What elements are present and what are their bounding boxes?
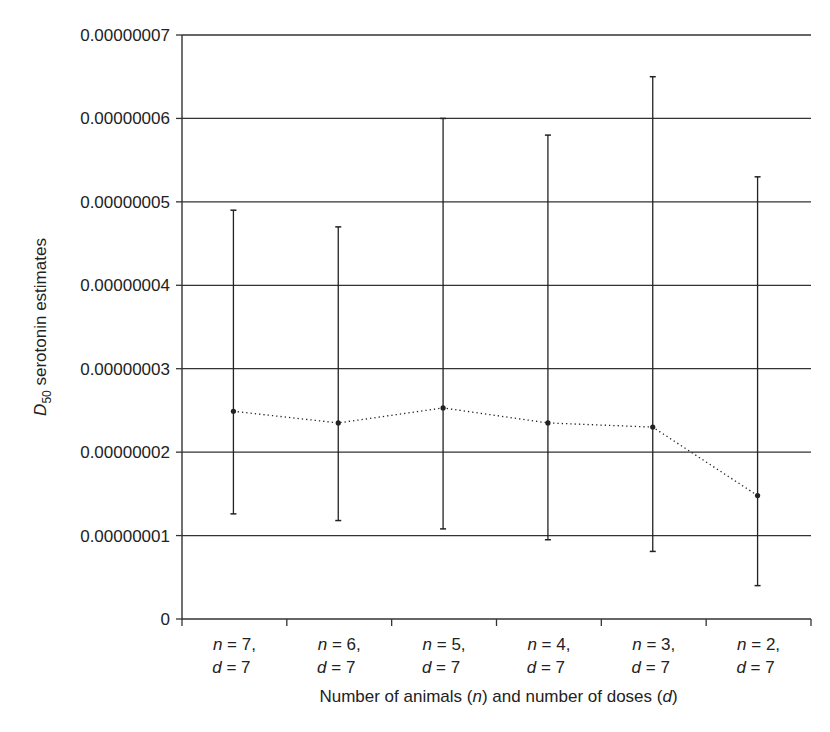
y-tick-label: 0.00000002: [80, 443, 170, 462]
x-category-label-line2: d = 7: [632, 658, 670, 677]
x-axis-title: Number of animals (n) and number of dose…: [319, 687, 677, 706]
y-tick-label: 0: [161, 610, 170, 629]
error-bars: [230, 77, 760, 586]
x-category-label-line2: d = 7: [422, 658, 460, 677]
y-tick-label: 0.00000003: [80, 360, 170, 379]
data-point: [650, 425, 655, 430]
y-axis-title: D50 serotonin estimates: [31, 238, 54, 416]
horizontal-gridlines: [182, 35, 811, 536]
x-category-label-line2: d = 7: [527, 658, 565, 677]
x-category-label-line2: d = 7: [212, 658, 250, 677]
x-category-label-line1: n = 7,: [213, 635, 256, 654]
x-category-label-line1: n = 5,: [423, 635, 466, 654]
x-axis-title-text: Number of animals (n) and number of dose…: [319, 687, 677, 706]
x-axis-category-labels: n = 7,d = 7n = 6,d = 7n = 5,d = 7n = 4,d…: [212, 635, 780, 677]
data-point: [440, 405, 445, 410]
data-point: [336, 420, 341, 425]
x-axis-ticks: [182, 619, 811, 626]
y-tick-label: 0.00000004: [80, 276, 170, 295]
y-tick-label: 0.00000005: [80, 193, 170, 212]
x-category-label-line2: d = 7: [736, 658, 774, 677]
x-category-label-line1: n = 4,: [527, 635, 570, 654]
y-tick-label: 0.00000006: [80, 109, 170, 128]
y-axis-title-text: D50 serotonin estimates: [31, 238, 54, 416]
chart: 00.000000010.000000020.000000030.0000000…: [0, 0, 830, 732]
data-point: [755, 493, 760, 498]
y-axis-ticks: 00.000000010.000000020.000000030.0000000…: [80, 26, 182, 629]
x-category-label-line2: d = 7: [317, 658, 355, 677]
x-category-label-line1: n = 2,: [737, 635, 780, 654]
x-category-label-line1: n = 6,: [318, 635, 361, 654]
data-point: [545, 420, 550, 425]
y-tick-label: 0.00000001: [80, 527, 170, 546]
axes: [182, 35, 811, 619]
data-point: [231, 409, 236, 414]
x-category-label-line1: n = 3,: [632, 635, 675, 654]
y-tick-label: 0.00000007: [80, 26, 170, 45]
